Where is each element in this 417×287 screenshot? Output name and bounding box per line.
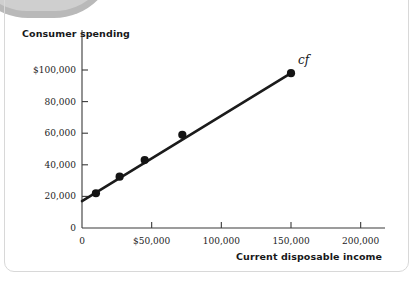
data-point <box>92 189 100 197</box>
y-tick-label: 0 <box>70 223 76 233</box>
axis-ticks <box>82 70 361 228</box>
series-label-cf: cf <box>298 53 309 67</box>
data-point <box>287 69 295 77</box>
x-tick-label: $50,000 <box>133 236 170 246</box>
y-tick-label: $100,000 <box>33 65 76 75</box>
x-tick-label: 100,000 <box>203 236 240 246</box>
y-tick-label: 20,000 <box>45 191 77 201</box>
x-tick-label: 200,000 <box>342 236 379 246</box>
y-tick-label: 60,000 <box>45 128 77 138</box>
data-point <box>178 131 186 139</box>
y-tick-label: 40,000 <box>45 160 77 170</box>
consumption-function-line <box>82 73 291 201</box>
data-point <box>116 173 124 181</box>
y-tick-label: 80,000 <box>45 97 77 107</box>
axes <box>82 30 385 228</box>
data-point <box>141 156 149 164</box>
chart-page: Consumer spending Current disposable inc… <box>0 0 417 287</box>
x-tick-label: 150,000 <box>272 236 309 246</box>
x-tick-label: 0 <box>79 236 85 246</box>
